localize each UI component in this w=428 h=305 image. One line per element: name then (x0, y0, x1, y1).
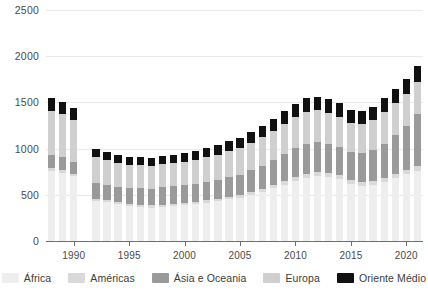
bar-1996 (137, 157, 144, 241)
y-axis-tick-label: 0 (33, 235, 39, 247)
bar-segment (325, 177, 332, 241)
legend-item[interactable]: África (2, 272, 51, 284)
bar-segment (236, 198, 243, 241)
bar-segment (214, 155, 221, 180)
bar-1999 (170, 155, 177, 241)
bar-segment (126, 165, 133, 188)
bar-segment (181, 153, 188, 161)
bar-segment (270, 131, 277, 161)
bar-segment (325, 144, 332, 174)
x-axis-tick-label: 2010 (284, 250, 307, 261)
bar-segment (292, 104, 299, 117)
bar-segment (369, 120, 376, 150)
bar-2018 (381, 98, 388, 241)
bar-segment (247, 195, 254, 241)
bar-segment (103, 202, 110, 241)
bar-segment (48, 155, 55, 168)
bar-segment (181, 185, 188, 203)
bar-segment (270, 160, 277, 184)
bar-segment (358, 186, 365, 241)
bar-segment (225, 151, 232, 177)
bar-segment (203, 157, 210, 181)
bar-2009 (281, 111, 288, 241)
bar-segment (148, 158, 155, 166)
bar-segment (325, 113, 332, 144)
legend-swatch-icon (68, 273, 85, 283)
bar-segment (192, 184, 199, 202)
bar-segment (225, 141, 232, 151)
bar-segment (314, 176, 321, 241)
bar-segment (247, 143, 254, 171)
bar-segment (59, 173, 66, 241)
bar-segment (92, 183, 99, 199)
bar-segment (314, 110, 321, 141)
bar-1997 (148, 158, 155, 241)
bar-segment (114, 204, 121, 241)
bar-segment (214, 201, 221, 241)
bar-segment (203, 203, 210, 241)
bar-segment (236, 148, 243, 175)
bar-segment (70, 176, 77, 241)
bar-1998 (159, 156, 166, 241)
legend-item[interactable]: Europa (263, 272, 319, 284)
bar-segment (347, 152, 354, 180)
bar-segment (236, 175, 243, 195)
bar-segment (314, 97, 321, 110)
bar-2011 (303, 98, 310, 241)
bar-1995 (126, 157, 133, 241)
x-axis-tick-mark (240, 241, 241, 246)
bar-1990 (70, 108, 77, 241)
bar-1989 (59, 102, 66, 241)
bar-segment (336, 147, 343, 175)
bar-2019 (392, 89, 399, 241)
bar-segment (103, 160, 110, 185)
gridline (46, 10, 423, 11)
legend-item-label: África (24, 272, 51, 284)
x-axis-tick-mark (129, 241, 130, 246)
bar-segment (314, 142, 321, 172)
bar-segment (225, 199, 232, 241)
bar-segment (281, 124, 288, 154)
bar-2016 (358, 111, 365, 241)
gridline (46, 56, 423, 57)
bar-segment (170, 186, 177, 204)
bar-segment (192, 204, 199, 241)
bar-segment (214, 180, 221, 199)
legend-item[interactable]: Américas (68, 272, 135, 284)
bar-segment (159, 164, 166, 187)
gridline (46, 102, 423, 103)
bar-segment (114, 163, 121, 187)
bar-segment (392, 103, 399, 135)
bar-segment (270, 188, 277, 241)
bar-segment (336, 179, 343, 241)
bar-1994 (114, 155, 121, 241)
bar-2013 (325, 99, 332, 241)
bar-segment (292, 117, 299, 148)
legend-item[interactable]: Oriente Médio (337, 272, 426, 284)
legend-item[interactable]: Ásia e Oceania (152, 272, 247, 284)
bar-1992 (92, 149, 99, 241)
bar-segment (358, 124, 365, 154)
x-axis-tick-label: 2000 (173, 250, 196, 261)
bar-segment (392, 135, 399, 174)
legend-swatch-icon (2, 273, 19, 283)
bar-segment (159, 156, 166, 164)
bar-segment (126, 188, 133, 204)
bar-segment (181, 205, 188, 241)
bar-segment (347, 184, 354, 241)
bar-segment (403, 79, 410, 94)
bar-segment (292, 181, 299, 241)
bar-segment (148, 208, 155, 241)
bar-segment (303, 98, 310, 111)
bar-segment (103, 185, 110, 200)
bar-2015 (347, 110, 354, 241)
bar-segment (403, 126, 410, 169)
legend-item-label: Oriente Médio (359, 272, 426, 284)
x-axis-tick-mark (74, 241, 75, 246)
bar-2002 (203, 148, 210, 241)
legend-swatch-icon (263, 273, 280, 283)
legend-swatch-icon (152, 273, 169, 283)
legend-item-label: Ásia e Oceania (174, 272, 247, 284)
bar-2001 (192, 151, 199, 241)
bar-2010 (292, 104, 299, 241)
